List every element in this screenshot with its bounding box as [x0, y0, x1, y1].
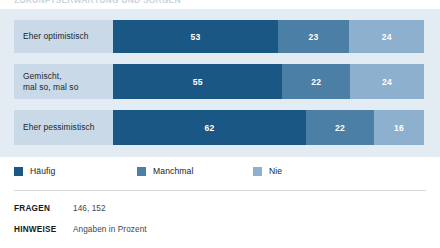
footer-key: FRAGEN: [14, 204, 73, 213]
bar-segment-haeufig: 53: [113, 20, 278, 53]
row-label-eher-pessimistisch: Eher pessimistisch: [14, 110, 113, 145]
legend-label: Manchmal: [153, 166, 193, 176]
bar-segment-manchmal: 22: [282, 64, 350, 99]
stacked-bar: 55 22 24: [113, 64, 424, 99]
legend-swatch-icon: [253, 167, 262, 176]
chart-row: Eher optimistisch 53 23 24: [0, 20, 440, 53]
legend-label: Häufig: [30, 166, 55, 176]
headline-strip: ZUKUNFTSERWARTUNG UND SORGEN: [0, 0, 440, 9]
bar-segment-manchmal: 22: [306, 110, 374, 145]
legend-label: Nie: [269, 166, 282, 176]
stacked-bar: 53 23 24: [113, 20, 424, 53]
footer-value: Angaben in Prozent: [73, 225, 147, 234]
legend-item-nie: Nie: [253, 163, 282, 179]
plot-panel: Eher optimistisch 53 23 24 Gemischt, mal…: [0, 9, 440, 157]
bar-segment-nie: 24: [350, 64, 424, 99]
footer-divider: [14, 190, 426, 191]
row-label-line-1: Eher pessimistisch: [23, 122, 95, 133]
chart-figure: ZUKUNFTSERWARTUNG UND SORGEN Eher optimi…: [0, 0, 440, 248]
footer-row-hinweise: HINWEISE Angaben in Prozent: [14, 225, 147, 234]
bar-segment-nie: 16: [374, 110, 424, 145]
chart-legend: Häufig Manchmal Nie: [0, 163, 440, 179]
row-label-eher-optimistisch: Eher optimistisch: [14, 20, 113, 53]
row-label-gemischt: Gemischt, mal so, mal so: [14, 64, 113, 99]
footer-value: 146, 152: [73, 204, 106, 213]
legend-item-manchmal: Manchmal: [137, 163, 193, 179]
chart-row: Eher pessimistisch 62 22 16: [0, 110, 440, 145]
bar-segment-haeufig: 55: [113, 64, 282, 99]
footer-key: HINWEISE: [14, 225, 73, 234]
legend-item-haeufig: Häufig: [14, 163, 55, 179]
footer-row-fragen: FRAGEN 146, 152: [14, 204, 106, 213]
chart-row: Gemischt, mal so, mal so 55 22 24: [0, 64, 440, 99]
legend-swatch-icon: [14, 167, 23, 176]
bar-segment-nie: 24: [349, 20, 424, 53]
row-label-line-1: Gemischt,: [23, 71, 78, 82]
headline-text: ZUKUNFTSERWARTUNG UND SORGEN: [14, 0, 181, 5]
row-label-line-1: Eher optimistisch: [23, 31, 88, 42]
stacked-bar: 62 22 16: [113, 110, 424, 145]
legend-swatch-icon: [137, 167, 146, 176]
row-label-line-2: mal so, mal so: [23, 82, 78, 93]
bar-segment-manchmal: 23: [278, 20, 350, 53]
bar-segment-haeufig: 62: [113, 110, 306, 145]
